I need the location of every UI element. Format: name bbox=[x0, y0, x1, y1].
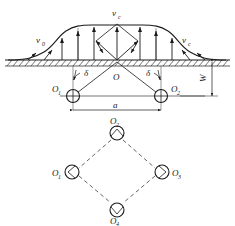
edge-bottom-right bbox=[123, 176, 155, 203]
node-marker-O4 bbox=[110, 203, 124, 217]
edge-top-right bbox=[123, 140, 155, 168]
label-O-center: O bbox=[113, 72, 120, 82]
label-vc-right: v bbox=[182, 35, 186, 45]
label-dimension-W: W bbox=[198, 73, 208, 82]
edge-top-left bbox=[79, 140, 111, 168]
diamond-arrow-up-right bbox=[117, 41, 138, 60]
velocity-arrow-group bbox=[62, 27, 172, 60]
source-marker-O2 bbox=[155, 90, 168, 103]
label-delta-right: δ bbox=[146, 68, 151, 78]
edge-bottom-left bbox=[79, 176, 111, 203]
label-node-O3-subscript: 3 bbox=[177, 174, 181, 180]
diamond-arrow-up-left bbox=[96, 41, 117, 60]
node-marker-O1 bbox=[65, 165, 79, 179]
label-v0-subscript: 0 bbox=[42, 41, 45, 47]
label-vc-right-subscript: c bbox=[188, 41, 191, 47]
diamond-edge-upper-left bbox=[96, 24, 117, 41]
node-marker-O3 bbox=[155, 165, 169, 179]
angle-arrow-left bbox=[74, 70, 76, 80]
lower-diagram: O 2 O 1 O 3 O 4 bbox=[52, 116, 181, 226]
label-O1-subscript: 1 bbox=[58, 90, 61, 96]
label-vc-top-subscript: c bbox=[118, 14, 121, 20]
label-node-O2-subscript: 2 bbox=[116, 122, 119, 128]
diamond-arrow-down-right bbox=[131, 41, 138, 53]
upper-diagram: v 0 v c v c O δ δ O 1 O 2 a W bbox=[5, 8, 230, 110]
label-dimension-a: a bbox=[113, 100, 118, 110]
label-delta-left: δ bbox=[84, 68, 89, 78]
figure-canvas: v 0 v c v c O δ δ O 1 O 2 a W bbox=[0, 0, 235, 226]
ray-O-to-O1 bbox=[73, 62, 117, 96]
ray-O-to-O2 bbox=[117, 62, 161, 96]
diamond-edges bbox=[79, 140, 155, 203]
label-node-O1-subscript: 1 bbox=[58, 174, 61, 180]
label-v0: v bbox=[36, 35, 40, 45]
diamond-edge-upper-right bbox=[117, 24, 138, 41]
label-O2-subscript: 2 bbox=[177, 90, 180, 96]
ground-hatching bbox=[7, 60, 228, 66]
flank-arrow-group bbox=[28, 50, 205, 60]
label-vc-top: v bbox=[112, 8, 116, 18]
diamond-arrow-down-left bbox=[96, 41, 103, 53]
angle-arrow-right bbox=[158, 70, 160, 80]
source-marker-O1 bbox=[67, 90, 80, 103]
node-marker-O2 bbox=[110, 126, 124, 140]
label-node-O4-subscript: 4 bbox=[116, 221, 119, 226]
